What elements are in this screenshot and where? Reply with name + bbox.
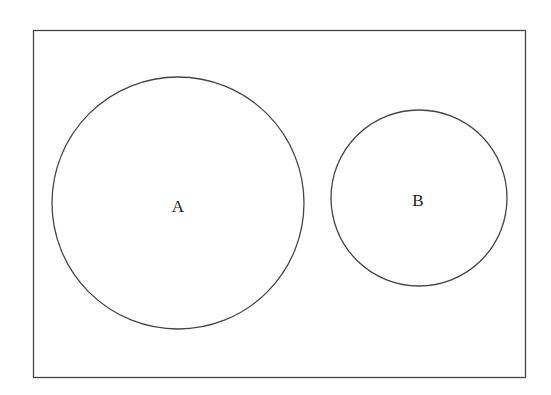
set-a-label: A (172, 197, 185, 216)
venn-diagram: A B (0, 0, 551, 395)
set-b-label: B (412, 191, 423, 210)
universe-rectangle (34, 31, 526, 378)
